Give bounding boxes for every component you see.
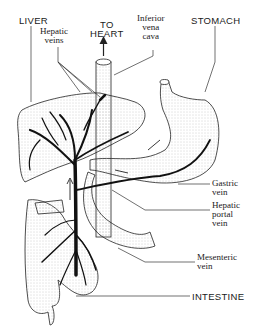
label-liver: LIVER <box>19 16 48 25</box>
portal-system-illustration <box>0 0 253 328</box>
label-hepatic-veins: Hepatic veins <box>40 27 68 45</box>
label-to-heart: TO HEART <box>90 20 124 38</box>
label-stomach: STOMACH <box>191 16 240 25</box>
label-inferior-vena-cava: Inferior vena cava <box>137 14 164 41</box>
label-gastric-vein: Gastric vein <box>212 179 238 197</box>
label-mesenteric-vein: Mesenteric vein <box>197 253 237 271</box>
label-hepatic-portal-vein: Hepatic portal vein <box>212 201 240 228</box>
label-intestine: INTESTINE <box>192 292 244 301</box>
intestine <box>25 200 98 325</box>
duodenum <box>84 172 155 248</box>
